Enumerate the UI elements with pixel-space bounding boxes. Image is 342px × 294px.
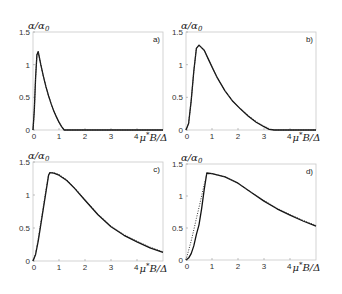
x-tick-label: 3: [109, 263, 114, 272]
plot-frame: [33, 32, 163, 130]
y-axis-label: α/α0: [28, 150, 50, 163]
x-tick-label: 1: [210, 132, 215, 141]
x-tick-label: 2: [236, 132, 241, 141]
y-tick-label: 0: [26, 126, 31, 135]
panel-b: 00.511.501234μ*B/Δα/α0b): [172, 20, 321, 143]
series-dotted: [186, 45, 316, 130]
series-solid: [33, 173, 163, 261]
x-tick-label: 0: [185, 262, 190, 271]
y-tick-label: 0.5: [19, 224, 31, 233]
panel-d: 00.511.501234μ*B/Δα/α0d): [172, 152, 321, 273]
x-tick-label: 2: [83, 263, 88, 272]
y-tick-label: 0.5: [19, 93, 31, 102]
series-solid: [186, 173, 316, 260]
panel-c: 00.511.501234μ*B/Δα/α0c): [19, 150, 168, 274]
x-axis-label: 4μ*B/Δ: [134, 262, 167, 274]
x-tick-label: 1: [57, 263, 62, 272]
panel-a: 00.511.501234μ*B/Δα/α0a): [19, 20, 168, 143]
x-tick-label: 1: [57, 132, 62, 141]
series-solid: [33, 52, 163, 130]
x-axis-label: 4μ*B/Δ: [287, 261, 320, 273]
x-tick-label: 0: [32, 263, 37, 272]
y-axis-label: α/α0: [28, 20, 50, 33]
x-tick-label: 3: [262, 262, 267, 271]
x-tick-label: 3: [109, 132, 114, 141]
x-axis-label: 4μ*B/Δ: [287, 131, 320, 143]
panel-label: c): [153, 165, 160, 174]
panel-label: b): [306, 35, 313, 44]
x-axis-label: 4μ*B/Δ: [134, 131, 167, 143]
panel-label: d): [306, 167, 313, 176]
plot-frame: [186, 32, 316, 130]
series-dotted: [33, 52, 163, 130]
panel-label: a): [153, 35, 160, 44]
plot-frame: [33, 162, 163, 261]
y-tick-label: 0: [26, 257, 31, 266]
series-dotted: [186, 174, 316, 260]
figure: 00.511.501234μ*B/Δα/α0a)00.511.501234μ*B…: [0, 0, 342, 294]
x-tick-label: 2: [83, 132, 88, 141]
y-axis-label: α/α0: [181, 152, 203, 165]
y-tick-label: 1: [26, 61, 31, 70]
x-tick-label: 3: [262, 132, 267, 141]
x-tick-label: 2: [236, 262, 241, 271]
series-solid: [186, 45, 316, 130]
y-tick-label: 0: [179, 256, 184, 265]
y-tick-label: 1: [179, 61, 184, 70]
y-tick-label: 0.5: [172, 93, 184, 102]
y-tick-label: 0: [179, 126, 184, 135]
series-dotted: [33, 173, 163, 261]
x-tick-label: 0: [185, 132, 190, 141]
y-tick-label: 1: [26, 191, 31, 200]
y-tick-label: 0.5: [172, 224, 184, 233]
x-tick-label: 1: [210, 262, 215, 271]
x-tick-label: 0: [32, 132, 37, 141]
y-axis-label: α/α0: [181, 20, 203, 33]
y-tick-label: 1: [179, 192, 184, 201]
